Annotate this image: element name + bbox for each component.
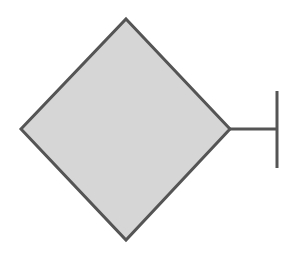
diagram-canvas (0, 0, 295, 254)
decision-diamond (21, 19, 230, 240)
